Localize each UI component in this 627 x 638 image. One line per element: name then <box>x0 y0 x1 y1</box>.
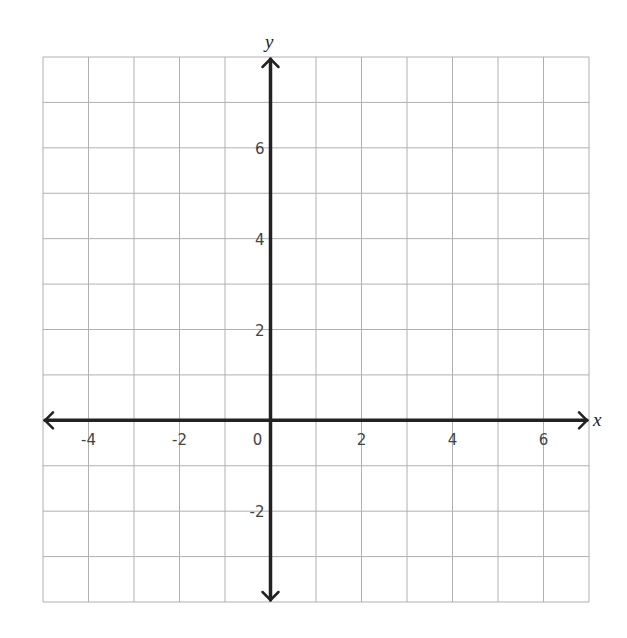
tick-labels: -4-22460-2246 <box>81 140 548 521</box>
x-tick-label: -2 <box>172 431 187 449</box>
x-tick-label: -4 <box>81 431 96 449</box>
x-tick-label: 2 <box>357 431 367 449</box>
coordinate-plane: -4-22460-2246 x y <box>0 0 627 638</box>
y-axis-label: y <box>263 31 274 52</box>
y-tick-label: 4 <box>255 231 265 249</box>
grid-lines <box>43 57 589 602</box>
x-tick-label: 4 <box>448 431 458 449</box>
y-tick-label: -2 <box>250 503 265 521</box>
x-axis-label: x <box>592 409 602 430</box>
origin-label: 0 <box>253 431 263 449</box>
y-tick-label: 2 <box>255 322 265 340</box>
x-tick-label: 6 <box>539 431 549 449</box>
y-tick-label: 6 <box>255 140 265 158</box>
